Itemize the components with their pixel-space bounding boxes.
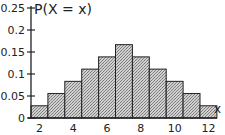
- bar-x-2: [31, 106, 48, 118]
- y-tick-label: 0.15: [1, 46, 26, 59]
- x-tick-label: 6: [104, 122, 111, 135]
- x-ticks: 24681012: [36, 122, 216, 135]
- bars: [31, 45, 217, 118]
- x-tick-label: 10: [168, 122, 182, 135]
- bar-x-11: [183, 94, 200, 118]
- chart: 00.050.10.150.20.25 24681012 P(X = x) x: [0, 0, 225, 135]
- x-tick-label: 2: [36, 122, 43, 135]
- y-tick-label: 0: [18, 112, 25, 125]
- y-tick-label: 0.1: [8, 68, 26, 81]
- x-tick-label: 4: [70, 122, 77, 135]
- y-tick-label: 0.25: [1, 2, 26, 15]
- bar-x-3: [48, 94, 65, 118]
- bar-x-7: [116, 45, 133, 118]
- y-tick-label: 0.05: [1, 90, 26, 103]
- bar-x-9: [149, 69, 166, 118]
- bar-x-6: [99, 57, 116, 118]
- bar-x-8: [132, 57, 149, 118]
- x-tick-label: 12: [201, 122, 215, 135]
- y-ticks: 00.050.10.150.20.25: [1, 2, 36, 125]
- bar-x-10: [166, 81, 183, 118]
- x-tick-label: 8: [137, 122, 144, 135]
- bar-x-5: [82, 69, 99, 118]
- y-tick-label: 0.2: [8, 24, 26, 37]
- bar-x-4: [65, 81, 82, 118]
- x-axis-label: x: [214, 102, 221, 116]
- y-axis-label: P(X = x): [34, 1, 92, 17]
